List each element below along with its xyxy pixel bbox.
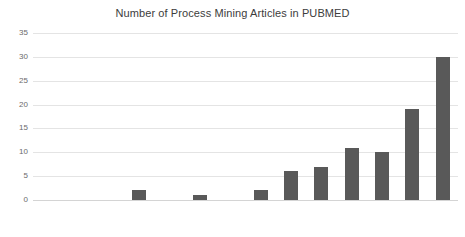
y-axis-tick-label: 10 xyxy=(2,148,28,156)
bar xyxy=(436,57,450,200)
y-axis-tick-label: 25 xyxy=(2,77,28,85)
bar xyxy=(132,190,146,200)
y-axis-tick-label: 20 xyxy=(2,101,28,109)
bar xyxy=(314,167,328,200)
bar xyxy=(405,109,419,200)
y-axis-tick-label: 35 xyxy=(2,29,28,37)
bar xyxy=(193,195,207,200)
y-axis-tick-label: 30 xyxy=(2,53,28,61)
bar-chart: Number of Process Mining Articles in PUB… xyxy=(0,0,465,237)
bar xyxy=(254,190,268,200)
y-axis-tick-label: 0 xyxy=(2,196,28,204)
bars-series xyxy=(33,33,458,200)
bar xyxy=(284,171,298,200)
plot-area: 05101520253035 2005200620072008200920102… xyxy=(33,33,458,200)
y-axis-tick-label: 5 xyxy=(2,172,28,180)
bar xyxy=(375,152,389,200)
bar xyxy=(345,148,359,200)
chart-title: Number of Process Mining Articles in PUB… xyxy=(0,7,465,19)
gridline xyxy=(33,200,458,201)
y-axis-tick-label: 15 xyxy=(2,124,28,132)
